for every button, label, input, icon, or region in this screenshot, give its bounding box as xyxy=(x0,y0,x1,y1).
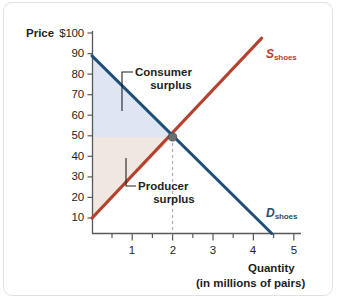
x-tick-label-3: 3 xyxy=(198,244,228,256)
consumer-surplus-label-line1: Consumer xyxy=(135,66,215,79)
consumer-surplus-label-line2: surplus xyxy=(135,79,207,92)
demand-curve-label: Dshoes xyxy=(266,207,297,221)
x-tick-label-2: 2 xyxy=(158,244,188,256)
y-tick-label-40: 40 xyxy=(38,150,84,162)
x-tick-label-4: 4 xyxy=(238,244,268,256)
producer-surplus-label-line1: Producer xyxy=(138,180,218,193)
supply-curve-symbol: S xyxy=(266,47,274,61)
supply-curve-label: Sshoes xyxy=(266,48,297,62)
y-tick-label-90: 90 xyxy=(38,47,84,59)
demand-curve-subscript: shoes xyxy=(275,212,298,221)
demand-curve-symbol: D xyxy=(266,206,275,220)
supply-demand-figure: Price $100 90 80 70 60 50 40 30 20 10 1 … xyxy=(0,0,339,302)
y-tick-label-10: 10 xyxy=(38,211,84,223)
y-tick-label-20: 20 xyxy=(38,191,84,203)
x-axis-subtitle: (in millions of pairs) xyxy=(196,277,305,289)
x-axis-title: Quantity xyxy=(248,262,295,274)
y-tick-label-60: 60 xyxy=(38,109,84,121)
equilibrium-point-marker xyxy=(169,133,177,141)
x-tick-label-1: 1 xyxy=(117,244,147,256)
y-tick-label-50: 50 xyxy=(38,129,84,141)
x-axis-ticks xyxy=(112,234,294,241)
supply-curve-subscript: shoes xyxy=(274,53,297,62)
y-tick-label-100: $100 xyxy=(38,27,84,39)
x-tick-label-5: 5 xyxy=(279,244,309,256)
y-tick-label-80: 80 xyxy=(38,68,84,80)
y-tick-label-30: 30 xyxy=(38,170,84,182)
y-tick-label-70: 70 xyxy=(38,88,84,100)
y-axis-ticks xyxy=(88,33,93,218)
producer-surplus-label-line2: surplus xyxy=(138,193,210,206)
